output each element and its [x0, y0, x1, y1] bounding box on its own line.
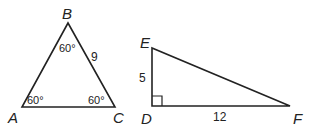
vertex-label-b: B	[62, 5, 72, 22]
vertex-label-f: F	[293, 110, 303, 127]
angle-label-a: 60°	[27, 94, 44, 106]
angle-label-b: 60°	[59, 42, 76, 54]
geometry-diagram: B A C 60° 60° 60° 9 E D F 5 12	[0, 0, 313, 133]
vertex-label-c: C	[113, 109, 124, 126]
side-length-bc: 9	[91, 50, 98, 64]
side-length-de: 5	[139, 71, 146, 85]
vertex-label-d: D	[141, 110, 152, 127]
angle-label-c: 60°	[88, 94, 105, 106]
side-length-df: 12	[213, 110, 227, 124]
triangle-def	[152, 48, 290, 106]
vertex-label-e: E	[140, 34, 151, 51]
right-angle-marker	[152, 96, 162, 106]
vertex-label-a: A	[7, 109, 18, 126]
